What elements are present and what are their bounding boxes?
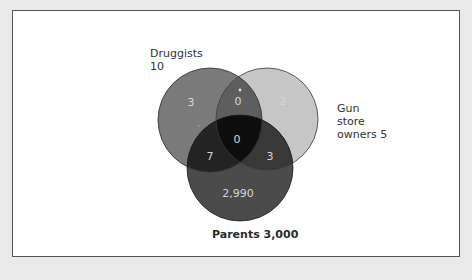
druggists-label: Druggists 10 — [150, 47, 203, 73]
druggists-label-total: 10 — [150, 60, 203, 73]
gun-label-line2: store — [337, 115, 387, 128]
druggists-label-name: Druggists — [150, 47, 203, 60]
region-druggists-gun: 0 — [235, 95, 242, 108]
region-druggists-only: 3 — [188, 96, 195, 109]
gun-label-line3: owners 5 — [337, 128, 387, 141]
region-druggists-parents: 7 — [207, 150, 214, 163]
region-gun-only: 2 — [280, 95, 287, 108]
region-parents-only: 2,990 — [222, 187, 254, 200]
gun-label-line1: Gun — [337, 102, 387, 115]
dot-marker — [198, 125, 200, 127]
region-gun-parents: 3 — [267, 150, 274, 163]
parents-label: Parents 3,000 — [212, 228, 298, 241]
dot-marker — [239, 89, 242, 92]
region-all-three: 0 — [234, 133, 241, 146]
gun-store-owners-label: Gun store owners 5 — [337, 102, 387, 141]
